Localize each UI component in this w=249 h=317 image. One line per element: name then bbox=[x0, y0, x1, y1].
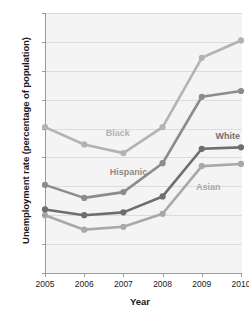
y-tick-mark bbox=[42, 157, 45, 158]
x-tick-mark bbox=[45, 274, 46, 277]
x-tick-label: 2005 bbox=[28, 279, 62, 289]
y-tick-mark bbox=[42, 244, 45, 245]
unemployment-line-chart: Unemployment rate (percentage of populat… bbox=[0, 0, 249, 317]
gridline bbox=[46, 244, 242, 245]
y-tick-mark bbox=[42, 100, 45, 101]
gridline bbox=[46, 157, 242, 158]
x-tick-label: 2008 bbox=[146, 279, 180, 289]
y-axis-title: Unemployment rate (percentage of populat… bbox=[20, 11, 31, 271]
gridline bbox=[46, 215, 242, 216]
series-label-asian: Asian bbox=[196, 182, 221, 192]
x-axis-title: Year bbox=[40, 296, 240, 307]
gridline bbox=[46, 13, 242, 14]
y-tick-mark bbox=[42, 71, 45, 72]
y-tick-mark bbox=[42, 215, 45, 216]
gridline bbox=[46, 129, 242, 130]
x-tick-mark bbox=[202, 274, 203, 277]
series-label-black: Black bbox=[106, 128, 130, 138]
plot-area bbox=[45, 13, 242, 274]
series-label-white: White bbox=[216, 131, 241, 141]
gridline bbox=[46, 42, 242, 43]
x-tick-label: 2010 bbox=[224, 279, 249, 289]
y-tick-mark bbox=[42, 186, 45, 187]
x-tick-mark bbox=[84, 274, 85, 277]
gridline bbox=[46, 100, 242, 101]
x-tick-label: 2006 bbox=[67, 279, 101, 289]
x-tick-mark bbox=[123, 274, 124, 277]
x-tick-label: 2007 bbox=[106, 279, 140, 289]
x-tick-label: 2009 bbox=[185, 279, 219, 289]
y-tick-mark bbox=[42, 13, 45, 14]
y-tick-mark bbox=[42, 129, 45, 130]
x-tick-mark bbox=[241, 274, 242, 277]
x-tick-mark bbox=[163, 274, 164, 277]
y-tick-mark bbox=[42, 42, 45, 43]
gridline bbox=[46, 71, 242, 72]
series-label-hispanic: Hispanic bbox=[110, 167, 148, 177]
